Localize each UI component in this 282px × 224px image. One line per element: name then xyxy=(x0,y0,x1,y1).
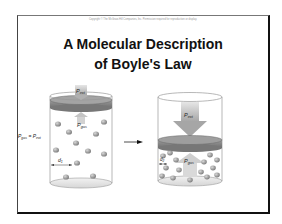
right-distance-marker: d2 xyxy=(159,157,167,165)
left-distance-label: d1 xyxy=(58,157,63,164)
left-distance-marker: d1 xyxy=(51,157,72,166)
boyles-law-diagram: Pext Pgas Pgas = Pext d1 xyxy=(0,0,282,224)
left-cylinder: Pext Pgas Pgas = Pext d1 xyxy=(18,85,112,188)
right-cylinder: Pext Pgas d2 xyxy=(158,93,222,187)
right-piston xyxy=(158,136,222,153)
right-pext-arrow-icon xyxy=(173,102,207,137)
pressure-equality-label: Pgas = Pext xyxy=(18,133,42,140)
arrow-right-icon xyxy=(124,140,143,144)
